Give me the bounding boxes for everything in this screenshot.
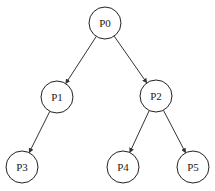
node-label: P5 <box>187 161 199 173</box>
nodes: P0P1P2P3P4P5 <box>6 7 209 183</box>
node-p5: P5 <box>177 151 209 183</box>
node-p1: P1 <box>41 81 73 113</box>
node-p3: P3 <box>6 151 38 183</box>
edge-p0-p2 <box>114 36 147 83</box>
edge-p2-p4 <box>130 111 150 153</box>
node-p0: P0 <box>89 7 121 39</box>
node-label: P3 <box>16 161 28 173</box>
node-label: P0 <box>99 17 111 29</box>
edge-p1-p3 <box>29 111 50 152</box>
tree-diagram: P0P1P2P3P4P5 <box>0 0 215 191</box>
edge-p2-p5 <box>163 110 185 153</box>
node-p2: P2 <box>140 80 172 112</box>
node-p4: P4 <box>107 151 139 183</box>
edge-p0-p1 <box>66 36 97 83</box>
node-label: P4 <box>117 161 129 173</box>
node-label: P1 <box>51 91 63 103</box>
node-label: P2 <box>150 90 162 102</box>
